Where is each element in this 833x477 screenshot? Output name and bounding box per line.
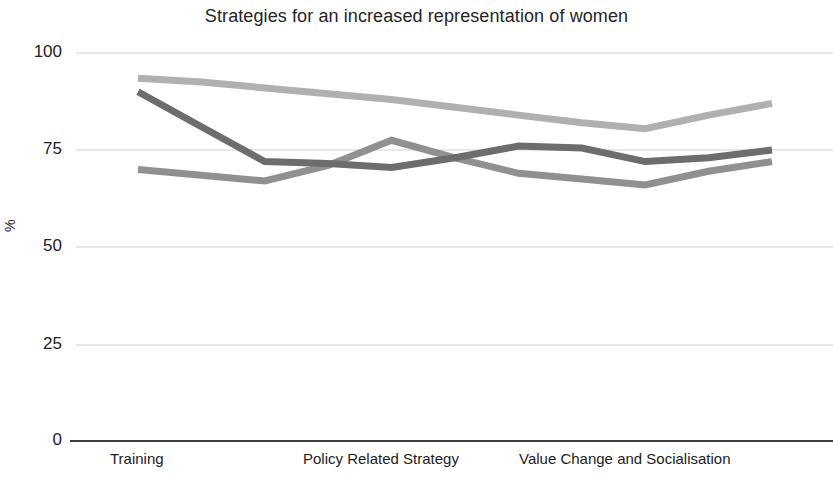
series-line-light-grey: [138, 78, 772, 129]
gridlines: [76, 53, 833, 345]
chart-container: Strategies for an increased representati…: [0, 0, 833, 477]
data-lines: [138, 78, 772, 185]
plot-area: [0, 0, 833, 477]
series-line-dark-grey: [138, 92, 772, 168]
